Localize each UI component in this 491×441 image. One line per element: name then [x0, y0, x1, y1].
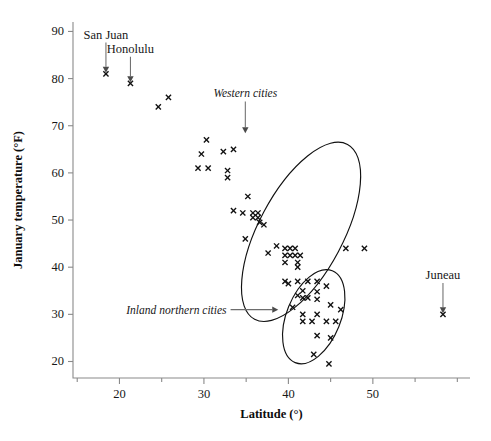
data-point [326, 361, 331, 366]
x-tick-label-40: 40 [282, 387, 295, 401]
data-point [255, 215, 260, 220]
data-point [305, 279, 310, 284]
data-point [156, 104, 161, 109]
y-tick-label-50: 50 [52, 213, 65, 227]
data-point [287, 246, 292, 251]
data-point [328, 335, 333, 340]
data-point [243, 236, 248, 241]
data-point [282, 260, 287, 265]
data-point [282, 253, 287, 258]
y-tick-label-30: 30 [52, 307, 65, 321]
inland-northern-cities-ellipse [270, 261, 357, 373]
data-point [315, 289, 320, 294]
y-tick-label-40: 40 [52, 260, 65, 274]
data-point [231, 147, 236, 152]
data-point [300, 295, 305, 300]
honolulu-label: Honolulu [107, 42, 155, 56]
data-point [309, 319, 314, 324]
data-point [315, 312, 320, 317]
plot-canvas: 203040506070809020304050Latitude (°)Janu… [0, 0, 491, 441]
y-axis-title: January temperature (°F) [11, 131, 25, 269]
data-point [287, 253, 292, 258]
san-juan-label: San Juan [84, 28, 130, 42]
data-point [250, 215, 255, 220]
y-tick-label-70: 70 [52, 119, 65, 133]
scatter-plot-figure: 203040506070809020304050Latitude (°)Janu… [0, 0, 491, 441]
data-point [245, 194, 250, 199]
data-point [315, 297, 320, 302]
data-point [343, 246, 348, 251]
axis-lines [73, 22, 470, 378]
data-point [300, 288, 305, 293]
data-point [315, 333, 320, 338]
data-point [311, 352, 316, 357]
data-point [300, 312, 305, 317]
data-point [300, 319, 305, 324]
y-tick-label-80: 80 [52, 72, 65, 86]
y-tick-label-90: 90 [52, 24, 65, 38]
juneau-label: Juneau [426, 268, 461, 282]
data-point [324, 283, 329, 288]
data-point [293, 253, 298, 258]
data-point [255, 210, 260, 215]
data-point [298, 253, 303, 258]
data-point [195, 166, 200, 171]
data-point [324, 319, 329, 324]
data-point [295, 279, 300, 284]
y-tick-label-20: 20 [52, 354, 65, 368]
x-axis-title: Latitude (°) [240, 407, 302, 421]
y-tick-label-60: 60 [52, 166, 65, 180]
data-point [295, 265, 300, 270]
data-point [274, 243, 279, 248]
data-point [221, 149, 226, 154]
data-point [282, 246, 287, 251]
data-point [250, 210, 255, 215]
data-point [293, 246, 298, 251]
data-point [362, 246, 367, 251]
data-point [240, 210, 245, 215]
x-tick-label-30: 30 [198, 387, 211, 401]
data-point [199, 151, 204, 156]
data-point [266, 250, 271, 255]
data-point [333, 319, 338, 324]
data-point [206, 166, 211, 171]
inland-northern-cities-label: Inland northern cities [125, 304, 227, 316]
western-cities-ellipse [217, 125, 385, 340]
data-point [338, 307, 343, 312]
data-point [204, 137, 209, 142]
data-point [231, 208, 236, 213]
x-tick-label-20: 20 [113, 387, 126, 401]
data-point [166, 95, 171, 100]
x-tick-label-50: 50 [367, 387, 380, 401]
data-point [225, 175, 230, 180]
western-cities-label: Western cities [213, 87, 277, 99]
western-cities-arrow-head [242, 127, 248, 133]
data-point [328, 302, 333, 307]
data-point [225, 168, 230, 173]
inland-northern-cities-arrow-head [272, 306, 278, 312]
data-point [295, 293, 300, 298]
data-point [295, 260, 300, 265]
